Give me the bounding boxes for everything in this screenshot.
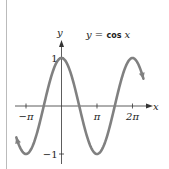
x-tick-labels: −ππ2π — [19, 111, 140, 122]
x-axis-arrow-icon — [146, 104, 153, 109]
x-tick-label: −π — [19, 111, 34, 122]
x-axis-label: x — [153, 101, 159, 112]
x-tick-label: 2π — [125, 111, 139, 122]
equation-func: cos — [106, 31, 121, 40]
equation-var: x — [121, 29, 130, 40]
y-tick-label: 1 — [51, 53, 57, 64]
y-tick-label: −1 — [43, 149, 58, 160]
equation-lhs: y = — [85, 29, 106, 40]
x-tick-label: π — [93, 111, 101, 122]
equation-label: y = cos x — [85, 29, 131, 40]
cosine-chart: x y −ππ2π 1−1 y = cos x — [0, 0, 169, 169]
y-axis-arrow-icon — [59, 40, 64, 47]
y-axis-label: y — [56, 27, 63, 38]
